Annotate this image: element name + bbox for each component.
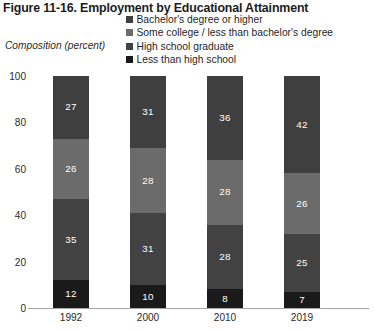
bar-segment: 27 xyxy=(53,76,89,139)
y-axis-caption: Composition (percent) xyxy=(5,40,105,51)
x-axis-line xyxy=(28,308,369,309)
legend-item-label: Bachelor's degree or higher xyxy=(137,14,263,25)
y-axis-labels: 020406080100 xyxy=(0,70,26,308)
legend-item: Less than high school xyxy=(126,54,333,66)
legend-item-label: Some college / less than bachelor's degr… xyxy=(137,27,334,38)
bar-segment-value: 28 xyxy=(219,252,230,262)
plot-area: 272635123128311036282884226257 xyxy=(32,76,369,308)
bar-segment: 31 xyxy=(130,76,166,148)
bar-segment-value: 36 xyxy=(219,113,230,123)
x-axis-tick-label: 2010 xyxy=(195,312,255,323)
bar-segment: 42 xyxy=(284,76,320,173)
bar-segment: 10 xyxy=(130,285,166,308)
x-axis-tick-label: 2019 xyxy=(272,312,332,323)
y-axis-tick-label: 0 xyxy=(20,303,26,314)
legend-item: High school graduate xyxy=(126,40,333,52)
bar-segment-value: 10 xyxy=(142,292,153,302)
legend-square-icon xyxy=(126,43,133,50)
x-axis-tick-label: 2000 xyxy=(118,312,178,323)
chart-legend: Bachelor's degree or higherSome college … xyxy=(126,14,333,65)
bar-group: 272635123128311036282884226257 xyxy=(32,76,369,308)
legend-item: Some college / less than bachelor's degr… xyxy=(126,27,333,39)
bar-segment: 26 xyxy=(53,139,89,199)
bar-segment: 28 xyxy=(207,160,243,225)
bar-segment: 26 xyxy=(284,173,320,233)
stacked-bar: 31283110 xyxy=(130,76,166,308)
stacked-bar: 4226257 xyxy=(284,76,320,308)
legend-item: Bachelor's degree or higher xyxy=(126,14,333,26)
figure-container: Figure 11-16. Employment by Educational … xyxy=(0,0,375,332)
legend-square-icon xyxy=(126,56,133,63)
stacked-bar: 27263512 xyxy=(53,76,89,308)
y-axis-tick-label: 80 xyxy=(15,117,26,128)
y-axis-tick-label: 20 xyxy=(15,256,26,267)
bar-segment-value: 12 xyxy=(65,289,76,299)
bar-segment-value: 8 xyxy=(222,294,228,304)
bar-segment-value: 25 xyxy=(296,258,307,268)
bar-segment: 7 xyxy=(284,292,320,308)
bar-segment: 28 xyxy=(207,225,243,290)
bar-segment: 25 xyxy=(284,234,320,292)
y-axis-tick-label: 40 xyxy=(15,210,26,221)
bar-segment: 35 xyxy=(53,199,89,280)
bar-segment: 12 xyxy=(53,280,89,308)
legend-item-label: Less than high school xyxy=(137,54,237,65)
bar-segment-value: 27 xyxy=(65,102,76,112)
bar-segment: 28 xyxy=(130,148,166,213)
stacked-bar: 3628288 xyxy=(207,76,243,308)
x-axis-labels: 1992200020102019 xyxy=(32,312,369,330)
y-axis-tick-label: 60 xyxy=(15,163,26,174)
page-title: Figure 11-16. Employment by Educational … xyxy=(3,1,308,15)
bar-segment-value: 26 xyxy=(65,164,76,174)
bar-segment-value: 31 xyxy=(142,244,153,254)
bar-segment-value: 42 xyxy=(296,120,307,130)
bar-segment-value: 28 xyxy=(142,176,153,186)
bar-segment-value: 7 xyxy=(299,295,305,305)
bar-segment: 36 xyxy=(207,76,243,160)
bar-segment-value: 35 xyxy=(65,235,76,245)
legend-item-label: High school graduate xyxy=(137,41,234,52)
bar-segment-value: 28 xyxy=(219,187,230,197)
x-axis-tick-label: 1992 xyxy=(41,312,101,323)
bar-segment-value: 26 xyxy=(296,199,307,209)
y-axis-tick-label: 100 xyxy=(9,71,26,82)
legend-square-icon xyxy=(126,29,133,36)
bar-segment: 31 xyxy=(130,213,166,285)
legend-square-icon xyxy=(126,16,133,23)
bar-segment: 8 xyxy=(207,289,243,308)
bar-segment-value: 31 xyxy=(142,107,153,117)
